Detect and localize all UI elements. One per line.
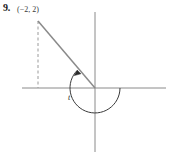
point-coordinate-label: (−2, 2)	[17, 4, 39, 15]
terminal-ray	[38, 21, 95, 88]
coordinate-plane-drawing	[0, 0, 175, 156]
trig-angle-figure: 9. (−2, 2) t	[0, 0, 175, 156]
problem-number: 9.	[3, 2, 10, 14]
angle-measure-label: t	[68, 93, 70, 103]
